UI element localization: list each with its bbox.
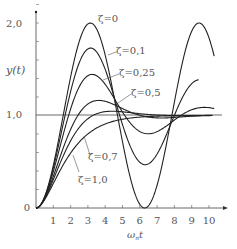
- y-axis-arrow-icon: [35, 11, 37, 13]
- x-tick-label: 10: [203, 215, 216, 226]
- leader-zeta-0-1: [108, 52, 116, 55]
- x-tick-label: 6: [137, 215, 143, 226]
- x-axis-arrow-icon: [223, 206, 228, 210]
- annotation-zeta-0-25: ζ=0,25: [119, 67, 155, 78]
- y-ticks: [36, 5, 39, 190]
- step-response-chart: 2,0 1,0 0 y(t) 12345678910 ωnt ζ=0 ζ=0,1…: [0, 0, 237, 249]
- leader-zeta-1-0: [73, 155, 79, 172]
- annotation-zeta-0-1: ζ=0,1: [116, 45, 146, 56]
- y-tick-label-0: 0: [24, 202, 30, 213]
- x-ticks: [53, 205, 209, 208]
- x-tick-label: 1: [50, 215, 56, 226]
- x-tick-label: 5: [119, 215, 125, 226]
- annotation-zeta-0-5: ζ=0,5: [131, 87, 161, 98]
- y-tick-label-2: 2,0: [6, 18, 22, 29]
- x-tick-label: 9: [189, 215, 195, 226]
- x-tick-label: 4: [102, 215, 108, 226]
- annotation-zeta-1-0: ζ=1,0: [78, 174, 108, 185]
- x-axis-label: ωnt: [127, 229, 144, 241]
- curve-zeta-0-25: [36, 74, 214, 208]
- annotation-zeta-0-7: ζ=0,7: [88, 151, 118, 162]
- x-tick-label: 8: [171, 215, 177, 226]
- x-tick-label: 7: [154, 215, 160, 226]
- y-axis-label: y(t): [5, 64, 25, 77]
- annotation-zeta-0: ζ=0: [98, 13, 118, 24]
- x-tick-label: 3: [85, 215, 91, 226]
- y-tick-label-1: 1,0: [6, 109, 22, 120]
- x-tick-labels: 12345678910: [50, 215, 215, 226]
- leader-zeta-0-5: [118, 94, 131, 103]
- x-tick-label: 2: [67, 215, 73, 226]
